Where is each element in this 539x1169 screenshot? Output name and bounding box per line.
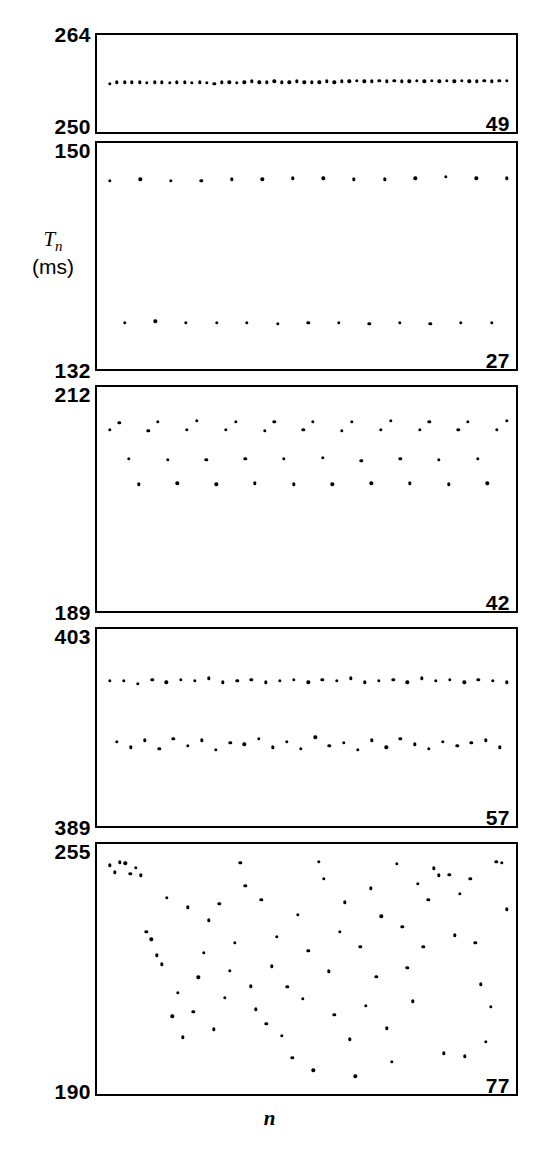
data-point: [342, 741, 345, 744]
data-point: [327, 970, 330, 973]
data-point: [270, 965, 273, 968]
data-point: [364, 1004, 367, 1007]
data-point: [243, 743, 246, 746]
data-point: [138, 178, 141, 181]
data-point: [340, 80, 343, 83]
data-point: [486, 482, 489, 485]
data-point: [302, 428, 305, 431]
data-point: [421, 945, 424, 948]
data-point: [408, 80, 411, 83]
data-point: [505, 176, 508, 179]
data-point: [385, 1027, 388, 1030]
data-point: [369, 482, 372, 485]
data-point: [434, 679, 437, 682]
y-axis-symbol: T: [43, 227, 55, 251]
data-point: [150, 938, 153, 941]
data-point: [321, 456, 324, 459]
data-point: [181, 1036, 184, 1039]
data-point: [214, 483, 217, 486]
data-point: [185, 428, 188, 431]
y-tick-panel3-top: 403: [13, 626, 91, 647]
data-point: [207, 918, 210, 921]
data-point: [393, 79, 396, 82]
data-point: [155, 953, 158, 956]
data-point: [118, 861, 121, 864]
data-point: [235, 81, 238, 84]
data-point: [322, 176, 325, 179]
data-point: [470, 741, 473, 744]
data-point: [445, 79, 448, 82]
data-point: [137, 483, 140, 486]
data-point: [261, 178, 264, 181]
data-point: [179, 678, 182, 681]
data-point: [147, 429, 150, 432]
data-point: [468, 877, 471, 880]
data-point: [220, 80, 223, 83]
panel-42: 42: [95, 385, 518, 613]
data-point: [437, 873, 440, 876]
data-point: [457, 428, 460, 431]
data-point: [348, 80, 351, 83]
data-point: [349, 677, 352, 680]
data-point: [491, 679, 494, 682]
data-point: [442, 1052, 445, 1055]
data-point: [123, 80, 126, 83]
data-point: [280, 1034, 283, 1037]
data-point: [483, 79, 486, 82]
data-point: [288, 80, 291, 83]
data-point: [328, 744, 331, 747]
data-point: [363, 80, 366, 83]
data-point: [448, 678, 451, 681]
data-point: [505, 908, 508, 911]
data-point: [186, 906, 189, 909]
data-point: [292, 678, 295, 681]
data-point: [176, 991, 179, 994]
data-point: [463, 1055, 466, 1058]
data-point: [244, 457, 247, 460]
data-point: [466, 420, 469, 423]
data-point: [265, 80, 268, 83]
data-point: [369, 887, 372, 890]
data-point: [363, 681, 366, 684]
data-point: [212, 1028, 215, 1031]
data-point: [160, 80, 163, 83]
data-point: [374, 975, 377, 978]
data-point: [438, 80, 441, 83]
data-point: [333, 80, 336, 83]
data-point: [299, 747, 302, 750]
data-point: [193, 679, 196, 682]
data-point: [145, 81, 148, 84]
data-point: [200, 738, 203, 741]
data-point: [368, 322, 371, 325]
data-point: [175, 80, 178, 83]
data-point: [205, 458, 208, 461]
data-point: [156, 420, 159, 423]
panel-number-2: 42: [486, 592, 510, 613]
plot-area-panel1: [97, 143, 516, 369]
data-point: [108, 863, 111, 866]
data-point: [249, 985, 252, 988]
data-point: [468, 80, 471, 83]
data-point: [136, 682, 139, 685]
data-point: [171, 1015, 174, 1018]
data-point: [406, 681, 409, 684]
data-point: [423, 80, 426, 83]
data-point: [205, 81, 208, 84]
data-point: [370, 80, 373, 83]
plot-area-panel4: [97, 844, 516, 1094]
data-point: [337, 321, 340, 324]
data-point: [392, 678, 395, 681]
data-point: [264, 681, 267, 684]
data-point: [384, 745, 387, 748]
data-point: [479, 983, 482, 986]
data-point: [484, 738, 487, 741]
data-point: [168, 81, 171, 84]
data-point: [303, 80, 306, 83]
data-point: [228, 741, 231, 744]
data-point: [399, 457, 402, 460]
data-point: [437, 458, 440, 461]
data-point: [276, 322, 279, 325]
data-point: [458, 892, 461, 895]
data-point: [285, 740, 288, 743]
data-point: [444, 175, 447, 178]
